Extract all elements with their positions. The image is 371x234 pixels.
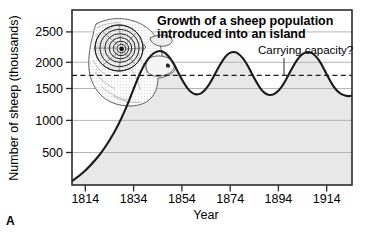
panel-label: A — [6, 211, 15, 229]
x-axis-title: Year — [193, 208, 218, 222]
carrying-capacity-label: Carrying capacity? — [258, 44, 353, 56]
chart-title-line-1: Growth of a sheep population — [157, 14, 333, 28]
y-axis-tick-labels: 2500 2000 1500 1000 500 — [35, 25, 63, 160]
x-tick-label: 1854 — [168, 192, 196, 206]
panel-label-text: A — [6, 214, 15, 228]
x-tick-label: 1814 — [71, 192, 99, 206]
y-axis-title: Number of sheep (thousands) — [7, 15, 21, 180]
y-tick-label: 500 — [42, 146, 63, 160]
y-tick-label: 1000 — [35, 114, 63, 128]
chart-svg: 2500 2000 1500 1000 500 Number of sheep … — [0, 0, 371, 234]
x-tick-label: 1914 — [313, 192, 341, 206]
x-tick-label: 1834 — [120, 192, 148, 206]
y-tick-label: 1500 — [35, 82, 63, 96]
y-tick-label: 2500 — [35, 25, 63, 39]
x-tick-label: 1874 — [216, 192, 244, 206]
figure-panel-a: 2500 2000 1500 1000 500 Number of sheep … — [0, 0, 371, 234]
x-tick-label: 1894 — [264, 192, 292, 206]
x-axis-tick-labels: 1814 1834 1854 1874 1894 1914 — [71, 192, 340, 206]
x-axis-ticks — [85, 185, 326, 192]
y-axis-ticks — [66, 32, 72, 153]
chart-title-line-2: introduced into an island — [157, 27, 306, 41]
y-tick-label: 2000 — [35, 56, 63, 70]
